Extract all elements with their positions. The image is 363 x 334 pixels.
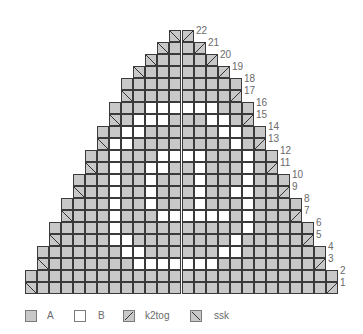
row-number: 20 (220, 50, 231, 60)
stitch-a (278, 222, 290, 234)
stitch-a (169, 282, 181, 294)
stitch-a (133, 198, 145, 210)
stitch-a (326, 270, 338, 282)
stitch-a (97, 210, 109, 222)
stitch-a (133, 102, 145, 114)
stitch-a (182, 54, 194, 66)
stitch-a (169, 138, 181, 150)
ssk-stitch (85, 162, 97, 174)
stitch-a (182, 78, 194, 90)
ssk-stitch (73, 186, 85, 198)
stitch-b (206, 114, 218, 126)
stitch-a (169, 234, 181, 246)
stitch-a (206, 138, 218, 150)
legend-label-a: A (47, 310, 54, 322)
k2tog-stitch (278, 186, 290, 198)
stitch-a (145, 126, 157, 138)
stitch-a (157, 246, 169, 258)
k2tog-stitch (326, 282, 338, 294)
row-number: 7 (304, 206, 310, 216)
stitch-a (97, 258, 109, 270)
stitch-a (169, 66, 181, 78)
stitch-a (169, 78, 181, 90)
stitch-b (109, 222, 121, 234)
stitch-a (145, 138, 157, 150)
stitch-a (182, 222, 194, 234)
ssk-stitch (25, 282, 37, 294)
stitch-b (230, 246, 242, 258)
stitch-a (109, 102, 121, 114)
stitch-a (218, 198, 230, 210)
stitch-a (266, 246, 278, 258)
stitch-a (157, 90, 169, 102)
row-number: 3 (328, 254, 334, 264)
stitch-a (242, 102, 254, 114)
stitch-b (206, 102, 218, 114)
row-number: 14 (268, 122, 279, 132)
stitch-a (242, 246, 254, 258)
ssk-stitch (133, 66, 145, 78)
k2tog-stitch (194, 42, 206, 54)
stitch-b (206, 210, 218, 222)
stitch-a (254, 162, 266, 174)
row-number: 21 (208, 38, 219, 48)
stitch-a (290, 246, 302, 258)
stitch-a (85, 198, 97, 210)
stitch-a (73, 198, 85, 210)
stitch-b (242, 174, 254, 186)
stitch-a (37, 270, 49, 282)
stitch-a (97, 198, 109, 210)
stitch-a (290, 258, 302, 270)
stitch-a (157, 78, 169, 90)
stitch-a (49, 270, 61, 282)
stitch-a (206, 198, 218, 210)
stitch-b (230, 138, 242, 150)
stitch-a (169, 174, 181, 186)
stitch-a (218, 78, 230, 90)
stitch-b (182, 210, 194, 222)
stitch-a (230, 258, 242, 270)
stitch-a (157, 234, 169, 246)
stitch-a (218, 138, 230, 150)
stitch-b (218, 114, 230, 126)
stitch-a (194, 234, 206, 246)
stitch-a (169, 42, 181, 54)
stitch-a (194, 78, 206, 90)
stitch-b (121, 234, 133, 246)
stitch-a (73, 210, 85, 222)
stitch-a (182, 186, 194, 198)
stitch-a (206, 66, 218, 78)
stitch-a (145, 150, 157, 162)
stitch-a (61, 222, 73, 234)
stitch-a (97, 162, 109, 174)
stitch-a (206, 126, 218, 138)
stitch-a (302, 282, 314, 294)
stitch-a (206, 246, 218, 258)
stitch-a (266, 150, 278, 162)
stitch-a (254, 258, 266, 270)
stitch-a (254, 210, 266, 222)
stitch-b (242, 150, 254, 162)
stitch-a (302, 222, 314, 234)
stitch-a (182, 126, 194, 138)
k2tog-stitch (230, 90, 242, 102)
row-number: 5 (316, 230, 322, 240)
stitch-a (194, 126, 206, 138)
stitch-a (121, 258, 133, 270)
ssk-stitch (109, 114, 121, 126)
stitch-a (133, 78, 145, 90)
stitch-a (194, 246, 206, 258)
row-number: 12 (280, 146, 291, 156)
stitch-a (182, 138, 194, 150)
k2tog-stitch (266, 162, 278, 174)
stitch-a (73, 234, 85, 246)
stitch-a (254, 198, 266, 210)
stitch-a (169, 222, 181, 234)
k2tog-stitch (302, 234, 314, 246)
stitch-a (169, 54, 181, 66)
stitch-a (169, 126, 181, 138)
stitch-a (133, 270, 145, 282)
stitch-b (109, 162, 121, 174)
stitch-a (254, 234, 266, 246)
stitch-a (230, 282, 242, 294)
